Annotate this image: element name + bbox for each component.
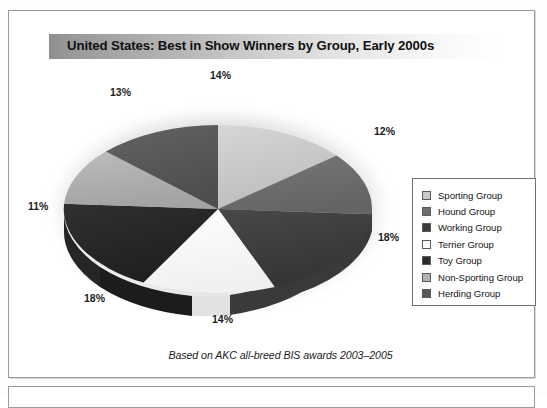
slice-label-nonsporting: 11% (28, 200, 48, 212)
legend-label: Non-Sporting Group (438, 272, 523, 283)
next-panel (8, 386, 535, 408)
legend-swatch-icon (422, 256, 431, 265)
legend-swatch-icon (422, 207, 431, 216)
legend-item-toy[interactable]: Toy Group (422, 253, 535, 269)
slice-label-sporting: 14% (210, 69, 231, 81)
pie-slices (64, 125, 372, 293)
legend-swatch-icon (422, 289, 431, 298)
page-title: United States: Best in Show Winners by G… (67, 38, 434, 53)
legend-swatch-icon (422, 273, 431, 282)
legend-item-herding[interactable]: Herding Group (422, 285, 535, 301)
legend-item-sporting[interactable]: Sporting Group (422, 187, 535, 203)
pie-graphic: 14% 12% 18% 14% 18% 11% 13% (34, 79, 394, 324)
title-banner: United States: Best in Show Winners by G… (49, 34, 501, 59)
legend-swatch-icon (422, 240, 431, 249)
legend-label: Toy Group (438, 255, 482, 266)
legend-swatch-icon (422, 223, 431, 232)
slice-label-working: 18% (378, 231, 399, 243)
legend-item-non-sporting[interactable]: Non-Sporting Group (422, 269, 535, 285)
pie-svg (34, 79, 394, 324)
legend-item-terrier[interactable]: Terrier Group (422, 236, 535, 252)
legend-item-working[interactable]: Working Group (422, 220, 535, 236)
legend-item-hound[interactable]: Hound Group (422, 203, 535, 219)
legend-swatch-icon (422, 191, 431, 200)
chart-caption: Based on AKC all-breed BIS awards 2003–2… (18, 349, 543, 361)
pie-chart: 14% 12% 18% 14% 18% 11% 13% Sporting Gro… (18, 66, 543, 366)
chart-panel: United States: Best in Show Winners by G… (8, 10, 535, 378)
legend-label: Sporting Group (438, 190, 502, 201)
slice-label-terrier: 14% (212, 313, 233, 325)
legend-label: Working Group (438, 222, 502, 233)
slice-label-hound: 12% (374, 125, 395, 137)
slice-label-toy: 18% (84, 292, 105, 304)
legend-label: Herding Group (438, 288, 500, 299)
chart-legend: Sporting Group Hound Group Working Group… (412, 178, 536, 306)
slice-label-herding: 13% (110, 86, 131, 98)
legend-label: Terrier Group (438, 239, 494, 250)
legend-label: Hound Group (438, 206, 495, 217)
